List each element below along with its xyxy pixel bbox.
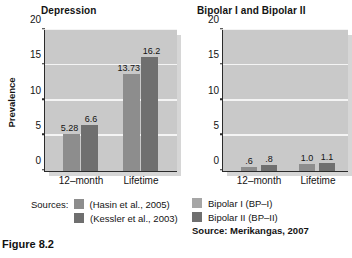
y-tick-label-20: 20 (208, 14, 219, 25)
legend-item: Sources: (Hasin et al., 2005) (31, 197, 178, 211)
x-tick-label-lifetime: Lifetime (300, 175, 335, 186)
legend-lead-label: Sources: (31, 199, 69, 210)
y-tick-mark-0 (42, 169, 45, 171)
x-tick-label-lifetime: Lifetime (123, 175, 158, 186)
y-tick-label-15: 15 (30, 49, 41, 60)
bar-value-12month-hasin: 5.28 (61, 124, 79, 133)
bar-lifetime-bp1: 1.0 (299, 164, 315, 171)
gridline-5 (223, 134, 348, 136)
gridline-20 (45, 29, 177, 31)
figure-caption: Figure 8.2 (2, 238, 54, 250)
plot-area-right: 0 5 10 15 20 .6 .8 1.0 1.1 12–month Life… (222, 30, 348, 172)
legend-swatch-icon (74, 213, 84, 223)
legend-depression: Sources: (Hasin et al., 2005) (Kessler e… (31, 197, 178, 225)
y-axis-label-left: Prevalence (6, 67, 17, 139)
legend-bipolar: Bipolar I (BP–I) Bipolar II (BP–II) Sour… (192, 196, 309, 236)
legend-swatch-icon (192, 198, 202, 208)
x-tick-label-12month: 12–month (237, 175, 281, 186)
gridline-10 (223, 99, 348, 101)
legend-label: (Hasin et al., 2005) (90, 199, 170, 210)
bar-value-12month-bp1: .6 (245, 157, 253, 166)
bar-12month-kessler: 6.6 (81, 125, 98, 172)
gridline-20 (223, 29, 348, 31)
bar-value-lifetime-kessler: 16.2 (143, 47, 161, 56)
y-tick-label-0: 0 (213, 155, 219, 166)
plot-area-left: 0 5 10 15 20 5.28 6.6 13.73 16.2 12–mont… (44, 30, 177, 172)
bar-value-12month-kessler: 6.6 (85, 115, 98, 124)
y-tick-label-10: 10 (30, 84, 41, 95)
bar-value-lifetime-bp1: 1.0 (301, 154, 314, 163)
legend-label: (Kessler et al., 2003) (90, 213, 178, 224)
gridline-15 (223, 64, 348, 66)
chart-title-left: Depression (41, 5, 96, 16)
x-tick-label-12month: 12–month (59, 175, 103, 186)
bar-value-12month-bp2: .8 (265, 155, 273, 164)
legend-swatch-icon (192, 212, 202, 222)
bar-value-lifetime-bp2: 1.1 (321, 153, 334, 162)
bar-12month-bp1: .6 (241, 167, 257, 171)
bar-value-lifetime-hasin: 13.73 (118, 64, 141, 73)
y-tick-label-15: 15 (208, 49, 219, 60)
legend-swatch-icon (74, 199, 84, 209)
bar-12month-bp2: .8 (261, 165, 277, 171)
legend-source-note: Source: Merikangas, 2007 (192, 225, 309, 236)
y-tick-label-0: 0 (35, 155, 41, 166)
y-tick-label-20: 20 (30, 14, 41, 25)
bar-lifetime-bp2: 1.1 (319, 163, 335, 171)
y-tick-label-5: 5 (213, 119, 219, 130)
legend-item: Bipolar I (BP–I) (192, 196, 309, 210)
y-tick-label-5: 5 (35, 119, 41, 130)
bar-12month-hasin: 5.28 (63, 134, 80, 171)
legend-label: Bipolar II (BP–II) (208, 212, 278, 223)
y-tick-mark-0 (220, 169, 223, 171)
y-tick-label-10: 10 (208, 84, 219, 95)
legend-label: Bipolar I (BP–I) (208, 198, 272, 209)
bar-lifetime-hasin: 13.73 (123, 74, 140, 171)
legend-item: (Kessler et al., 2003) (31, 211, 178, 225)
legend-item: Bipolar II (BP–II) (192, 210, 309, 224)
bar-lifetime-kessler: 16.2 (141, 57, 158, 171)
